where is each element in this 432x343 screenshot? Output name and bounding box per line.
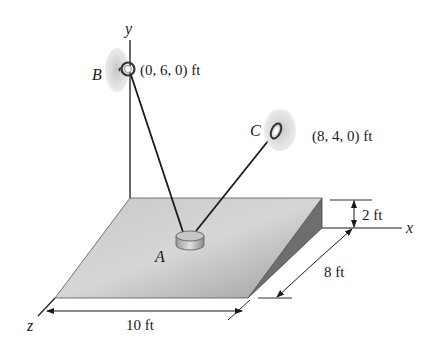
ring-C: C (8, 4, 0) ft [250, 109, 373, 151]
y-axis-label: y [123, 20, 133, 38]
point-C-label: C [250, 122, 261, 139]
point-B-label: B [92, 66, 102, 83]
dimension-height-label: 2 ft [362, 207, 383, 223]
point-B-coords: (0, 6, 0) ft [140, 62, 201, 79]
dimension-width: 10 ft [47, 300, 250, 333]
dimension-height: 2 ft [330, 200, 383, 227]
ring-B: B (0, 6, 0) ft [92, 48, 201, 92]
x-axis-label: x [405, 219, 413, 236]
dimension-width-label: 10 ft [126, 317, 155, 333]
point-A-label: A [154, 248, 165, 265]
y-axis: y [123, 20, 133, 198]
point-C-coords: (8, 4, 0) ft [312, 128, 373, 145]
z-axis-label: z [26, 317, 34, 334]
z-axis: z [26, 298, 55, 334]
statics-diagram: y x z 2 ft 8 ft 10 ft [0, 0, 432, 343]
dimension-depth-label: 8 ft [324, 264, 345, 280]
